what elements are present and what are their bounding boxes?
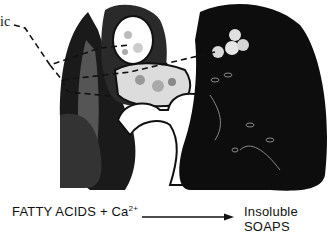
reaction-product: Insoluble SOAPS [244, 204, 332, 234]
partial-label: ic [0, 14, 10, 30]
reaction-arrow-icon [142, 213, 234, 221]
reaction-reactants: FATTY ACIDS + Ca2+ [12, 204, 138, 219]
product-text: Insoluble SOAPS [244, 204, 298, 234]
reactant-text: FATTY ACIDS + Ca [12, 204, 129, 219]
charge-superscript: 2+ [129, 204, 139, 213]
